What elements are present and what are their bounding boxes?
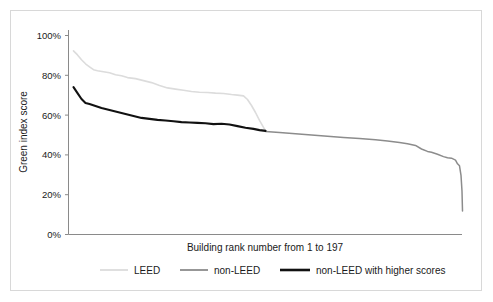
y-tick-label-20: 20% <box>42 189 62 200</box>
legend-label-leed: LEED <box>134 265 160 276</box>
y-tick-label-100: 100% <box>37 30 62 41</box>
y-tick-label-60: 60% <box>42 110 62 121</box>
series-line-non-leed-higher <box>74 87 266 131</box>
y-axis-title: Green index score <box>18 91 29 173</box>
y-tick-marks <box>65 36 69 235</box>
legend-label-non-leed: non-LEED <box>214 265 260 276</box>
series-line-leed <box>74 51 266 131</box>
chart-legend: LEED non-LEED non-LEED with higher score… <box>100 265 446 276</box>
y-tick-label-0: 0% <box>47 229 61 240</box>
legend-label-non-leed-higher: non-LEED with higher scores <box>316 265 446 276</box>
chart-figure: 100% 80% 60% 40% 20% 0% Green index scor… <box>0 0 493 302</box>
series-line-non-leed <box>266 131 463 211</box>
chart-plot-area: 100% 80% 60% 40% 20% 0% Green index scor… <box>0 0 493 302</box>
y-tick-label-80: 80% <box>42 70 62 81</box>
x-axis-title: Building rank number from 1 to 197 <box>187 242 344 253</box>
y-tick-label-40: 40% <box>42 149 62 160</box>
